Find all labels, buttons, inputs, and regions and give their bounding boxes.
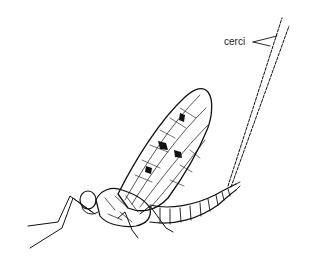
cercus-2 [231, 26, 289, 187]
head [80, 191, 98, 214]
cerci-label: cerci [224, 36, 245, 47]
midleg [118, 212, 138, 238]
thorax [96, 188, 150, 226]
wing-marking [179, 113, 185, 122]
wing-marking [174, 150, 182, 158]
hindleg [140, 206, 173, 232]
foreleg-2 [30, 198, 95, 248]
mayfly-illustration: cerci [0, 0, 319, 269]
wing-marking [145, 166, 152, 174]
forewing [118, 89, 212, 211]
foreleg [28, 196, 92, 226]
